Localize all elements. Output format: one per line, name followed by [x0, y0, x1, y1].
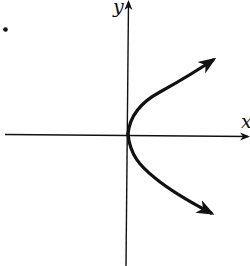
x-axis-label: x — [241, 112, 250, 131]
graph-svg — [0, 0, 250, 266]
parabola-lower-branch — [128, 134, 211, 213]
y-axis-label: y — [113, 0, 124, 16]
parabola-upper-branch — [128, 60, 213, 134]
bullet-dot — [3, 27, 8, 32]
graph-figure: y x — [0, 0, 250, 266]
